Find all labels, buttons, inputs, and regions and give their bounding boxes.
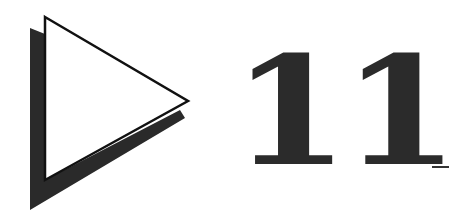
episode-title-card: 11 — [0, 0, 449, 218]
episode-number: 11 — [232, 36, 449, 186]
underscore-cursor — [432, 166, 449, 168]
play-triangle-icon — [0, 0, 210, 218]
